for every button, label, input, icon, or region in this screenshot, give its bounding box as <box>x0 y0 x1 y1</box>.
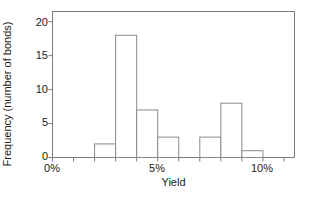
histogram-bar <box>221 103 242 157</box>
histogram-figure: Frequency (number of bonds) 20 15 10 5 0… <box>0 0 310 198</box>
histogram-bar <box>158 137 179 157</box>
axes-frame <box>53 12 295 158</box>
histogram-bars <box>95 35 263 157</box>
plot-area <box>0 0 310 198</box>
x-tick-marks <box>53 158 284 162</box>
histogram-bar <box>95 144 116 158</box>
y-tick-marks <box>49 22 53 158</box>
histogram-bar <box>200 137 221 157</box>
histogram-bar <box>242 151 263 158</box>
histogram-bar <box>137 110 158 158</box>
histogram-bar <box>116 35 137 157</box>
